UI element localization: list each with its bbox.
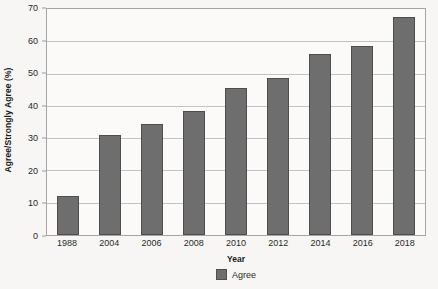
y-axis-title-text: Agree/Strongly Agree (%) <box>3 67 13 172</box>
x-tick-label: 2014 <box>299 238 341 254</box>
x-axis-title: Year <box>46 254 426 264</box>
x-tick-label: 2004 <box>88 238 130 254</box>
bar-slot <box>257 9 299 235</box>
bar[interactable] <box>141 124 163 235</box>
y-tick-label: 30 <box>28 133 38 143</box>
y-tick-label: 50 <box>28 68 38 78</box>
y-tick-label: 40 <box>28 101 38 111</box>
bar-slot <box>383 9 425 235</box>
y-axis-title: Agree/Strongly Agree (%) <box>0 0 16 240</box>
y-tick-label: 60 <box>28 36 38 46</box>
bar[interactable] <box>309 54 331 235</box>
bar-slot <box>341 9 383 235</box>
bar-slot <box>215 9 257 235</box>
bar[interactable] <box>393 17 415 235</box>
plot-area <box>46 8 426 236</box>
bar[interactable] <box>351 46 373 235</box>
bar-slot <box>173 9 215 235</box>
y-tick-label: 0 <box>33 231 38 241</box>
x-tick-label: 2018 <box>384 238 426 254</box>
x-tick-label: 2006 <box>130 238 172 254</box>
bar-slot <box>47 9 89 235</box>
x-tick-label: 2012 <box>257 238 299 254</box>
bar[interactable] <box>183 111 205 235</box>
y-tick-label: 70 <box>28 3 38 13</box>
y-tick-label: 10 <box>28 198 38 208</box>
y-tick-label: 20 <box>28 166 38 176</box>
bar[interactable] <box>99 135 121 235</box>
x-tick-label: 2016 <box>342 238 384 254</box>
chart-figure: Agree/Strongly Agree (%) 010203040506070… <box>0 0 438 289</box>
bar-slot <box>299 9 341 235</box>
y-axis-tick-labels: 010203040506070 <box>16 8 42 236</box>
bar[interactable] <box>57 196 79 235</box>
legend-swatch-icon <box>216 269 227 280</box>
bar-slot <box>89 9 131 235</box>
bar-series-agree <box>47 9 425 235</box>
x-tick-label: 1988 <box>46 238 88 254</box>
legend-label: Agree <box>232 270 256 280</box>
x-tick-label: 2008 <box>173 238 215 254</box>
chart-legend: Agree <box>46 269 426 280</box>
bar-slot <box>131 9 173 235</box>
x-axis-tick-labels: 198820042006200820102012201420162018 <box>46 238 426 254</box>
bar[interactable] <box>225 88 247 235</box>
x-tick-label: 2010 <box>215 238 257 254</box>
bar[interactable] <box>267 78 289 235</box>
